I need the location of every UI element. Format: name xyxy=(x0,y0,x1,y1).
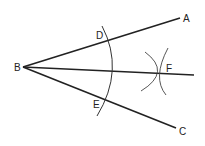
label-f: F xyxy=(166,63,172,74)
label-d: D xyxy=(96,30,103,41)
arc-from-d xyxy=(141,52,158,91)
label-a: A xyxy=(183,13,190,24)
label-c: C xyxy=(179,126,186,137)
label-b: B xyxy=(14,62,21,73)
angle-bisector-diagram: B A C D E F xyxy=(0,0,205,146)
ray-ba xyxy=(23,18,180,67)
label-e: E xyxy=(93,99,100,110)
ray-bc xyxy=(23,67,176,128)
